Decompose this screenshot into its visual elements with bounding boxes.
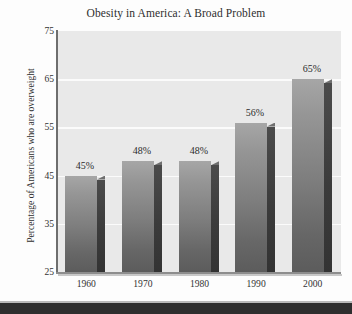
bar[interactable] xyxy=(65,176,105,272)
bar[interactable] xyxy=(292,79,332,272)
bottom-band xyxy=(0,303,352,314)
bar-face xyxy=(179,161,211,272)
bar-face xyxy=(65,176,97,272)
bar[interactable] xyxy=(122,161,162,272)
bar-side-3d xyxy=(97,180,105,272)
bar-side-3d xyxy=(267,127,275,272)
x-axis-tick-label: 1970 xyxy=(115,278,171,289)
bar[interactable] xyxy=(179,161,219,272)
x-axis-tick-label: 2000 xyxy=(285,278,341,289)
bar-value-label: 65% xyxy=(288,63,336,74)
bar-side-3d xyxy=(211,165,219,272)
x-axis-line-shadow xyxy=(58,274,342,276)
bar-top-3d xyxy=(324,79,332,83)
x-axis-tick-label: 1960 xyxy=(58,278,114,289)
y-axis-tick-label: 65 xyxy=(6,73,54,84)
bar-face xyxy=(122,161,154,272)
y-axis-tick-label: 45 xyxy=(6,170,54,181)
x-axis-tick-label: 1980 xyxy=(172,278,228,289)
y-axis-tick-label: 25 xyxy=(6,266,54,277)
bar-face xyxy=(292,79,324,272)
bar[interactable] xyxy=(235,123,275,272)
y-axis-tick-label: 35 xyxy=(6,218,54,229)
bar-value-label: 48% xyxy=(175,145,223,156)
y-axis-tick-label: 55 xyxy=(6,121,54,132)
bar-value-label: 45% xyxy=(61,160,109,171)
x-axis-tick-label: 1990 xyxy=(228,278,284,289)
bar-face xyxy=(235,123,267,272)
y-axis-tick-label: 75 xyxy=(6,25,54,36)
bar-side-3d xyxy=(324,83,332,272)
y-axis-tick-labels: 756555453525 xyxy=(0,0,54,314)
bar-value-label: 48% xyxy=(118,145,166,156)
bar-side-3d xyxy=(154,165,162,272)
chart-page: Obesity in America: A Broad Problem Perc… xyxy=(0,0,352,314)
bar-top-3d xyxy=(267,123,275,127)
bar-value-label: 56% xyxy=(231,107,279,118)
